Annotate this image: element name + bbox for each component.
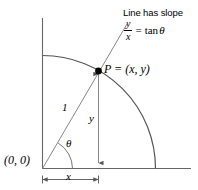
angle-theta-label: θ xyxy=(66,138,71,149)
slope-equation: y x = tanθ xyxy=(124,19,165,42)
origin-label: (0, 0) xyxy=(4,154,30,166)
slope-caption: Line has slope xyxy=(123,8,183,18)
radius-label: 1 xyxy=(62,102,68,113)
slope-numerator: y xyxy=(124,19,132,30)
point-p-marker xyxy=(95,68,102,75)
slope-denominator: x xyxy=(124,31,132,42)
tan-text: tan xyxy=(145,24,158,36)
point-p-label: P = (x, y) xyxy=(104,63,150,75)
y-leg-label: y xyxy=(89,113,94,124)
tan-term: tanθ xyxy=(145,25,165,36)
equals-sign: = xyxy=(135,25,141,36)
x-leg-label: x xyxy=(66,171,71,182)
slope-fraction: y x xyxy=(124,19,132,42)
theta-symbol: θ xyxy=(159,24,164,36)
trigonometry-figure: Line has slope y x = tanθ P = (x, y) 1 y… xyxy=(0,0,198,190)
slope-line xyxy=(43,24,128,169)
